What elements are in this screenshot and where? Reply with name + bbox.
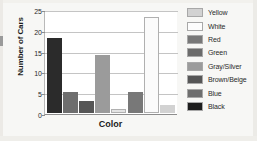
bar [144,17,159,113]
plot-area: 0510152025 [44,11,177,115]
y-axis-tick-mark [42,73,45,74]
legend-label: Black [208,103,225,110]
bar-slot [62,11,78,113]
y-axis-tick-label: 5 [38,91,42,98]
y-axis-tick-mark [42,32,45,33]
legend-swatch [187,89,203,98]
legend-label: Blue [208,90,222,97]
bar-slot [78,11,94,113]
legend-swatch [187,62,203,71]
y-axis-tick-label: 25 [34,8,42,15]
legend-item: Yellow [187,6,253,19]
y-axis-tick-mark [42,94,45,95]
bar [95,55,110,113]
bar-chart: Number of Cars 0510152025 Color [6,4,184,137]
legend-item: Brown/Beige [187,73,253,86]
page-frame-right [253,0,257,141]
y-axis-tick-label: 20 [34,28,42,35]
y-axis-tick-mark [42,53,45,54]
legend-item: Blue [187,86,253,99]
bar [111,109,126,113]
legend-swatch [187,48,203,57]
legend-label: Red [208,36,221,43]
legend-item: Gray/Silver [187,60,253,73]
y-axis-tick-label: 0 [38,112,42,119]
bar-slot [159,11,175,113]
legend-label: Brown/Beige [208,76,247,83]
page-frame-left [0,0,3,141]
bar-slot [111,11,127,113]
y-axis-tick-label: 15 [34,49,42,56]
legend-item: Black [187,100,253,113]
legend-label: White [208,23,225,30]
legend-swatch [187,75,203,84]
legend-item: Red [187,33,253,46]
bar [47,38,62,113]
legend-swatch [187,35,203,44]
bar-slot [95,11,111,113]
legend-label: Gray/Silver [208,63,242,70]
legend-swatch [187,102,203,111]
chart-legend: YellowWhiteRedGreenGray/SilverBrown/Beig… [187,6,253,113]
legend-label: Green [208,49,227,56]
chart-page: Number of Cars 0510152025 Color YellowWh… [0,0,257,141]
page-edge-marker [0,36,3,46]
legend-item: Green [187,46,253,59]
y-axis-tick-label: 10 [34,70,42,77]
bar-slot [143,11,159,113]
legend-label: Yellow [208,9,227,16]
page-frame-top [0,0,257,3]
bar-slot [46,11,62,113]
bar-slot [127,11,143,113]
legend-swatch [187,8,203,17]
legend-swatch [187,22,203,31]
bar-series [46,11,177,113]
bar [128,92,143,113]
y-axis-title: Number of Cars [16,16,25,78]
legend-item: White [187,19,253,32]
bar [79,101,94,113]
bar [63,92,78,113]
bar [160,105,175,113]
x-axis-title: Color [44,119,177,129]
y-axis-tick-mark [42,11,45,12]
y-axis-tick-mark [42,115,45,116]
